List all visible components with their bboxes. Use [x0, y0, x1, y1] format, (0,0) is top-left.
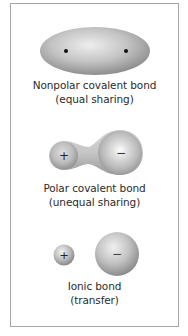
caption-subtitle: (transfer)	[10, 293, 179, 307]
caption-subtitle: (equal sharing)	[10, 92, 179, 106]
electron-dot-left	[64, 49, 68, 53]
caption-title: Ionic bond	[10, 279, 179, 293]
caption-title: Nonpolar covalent bond	[10, 78, 179, 92]
negative-charge-icon: −	[116, 146, 126, 160]
caption-title: Polar covalent bond	[10, 181, 179, 195]
positive-charge-icon: +	[59, 249, 68, 262]
caption-subtitle: (unequal sharing)	[10, 195, 179, 209]
polar-caption: Polar covalent bond (unequal sharing)	[10, 181, 179, 209]
nonpolar-caption: Nonpolar covalent bond (equal sharing)	[10, 78, 179, 106]
ionic-caption: Ionic bond (transfer)	[10, 279, 179, 307]
negative-charge-icon: −	[112, 247, 122, 261]
polar-bond-shape: + −	[49, 130, 143, 175]
ionic-bond-shape: + −	[54, 232, 140, 276]
positive-charge-icon: +	[59, 149, 69, 163]
electron-dot-right	[124, 49, 128, 53]
nonpolar-bond-shape	[40, 27, 150, 75]
